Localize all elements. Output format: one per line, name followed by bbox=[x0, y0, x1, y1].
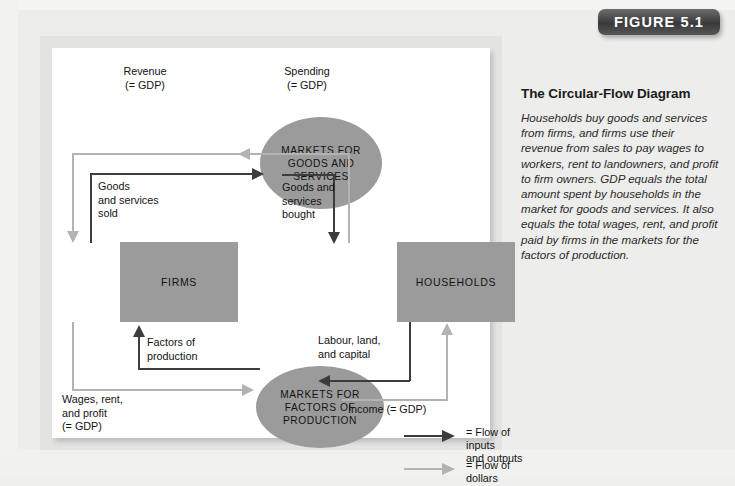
legend-equals-1: = bbox=[466, 459, 472, 471]
flow-wages-vertical bbox=[72, 322, 74, 390]
flow-goods-sold-arrowhead bbox=[252, 168, 264, 180]
legend-dark-arrowhead-icon bbox=[442, 430, 455, 442]
legend-light-arrow-icon bbox=[404, 468, 444, 470]
node-firms: FIRMS bbox=[120, 242, 238, 322]
flow-factors-vertical bbox=[138, 336, 140, 369]
caption-title: The Circular-Flow Diagram bbox=[521, 86, 719, 101]
flow-revenue-arrowhead bbox=[67, 231, 79, 243]
label-goods-and-services-sold: Goods and services sold bbox=[98, 180, 159, 221]
flow-goods-bought-arrowhead bbox=[328, 232, 340, 244]
caption-body: Households buy goods and services from f… bbox=[521, 110, 719, 262]
node-markets-goods-label: MARKETS FOR GOODS AND SERVICES bbox=[260, 144, 382, 183]
legend-dollars-text: = Flow of dollars bbox=[466, 459, 536, 485]
label-labour-land-and-capital: Labour, land, and capital bbox=[318, 334, 380, 361]
diagram-legend: = Flow of inputs and outputs = Flow of d… bbox=[404, 429, 536, 486]
flow-labour-horizontal bbox=[328, 380, 410, 382]
legend-item-dollars: = Flow of dollars bbox=[404, 462, 536, 486]
legend-label-1: Flow of dollars bbox=[466, 459, 510, 484]
flow-wages-arrowhead bbox=[242, 384, 254, 396]
diagram-panel: FIRMS HOUSEHOLDS MARKETS FOR GOODS AND S… bbox=[52, 48, 490, 438]
flow-factors-arrowhead bbox=[133, 325, 145, 337]
node-firms-label: FIRMS bbox=[161, 276, 197, 288]
label-goods-and-services-bought: Goods and services bought bbox=[282, 181, 335, 222]
flow-income-vertical bbox=[446, 334, 448, 400]
legend-item-inputs-outputs: = Flow of inputs and outputs bbox=[404, 429, 536, 453]
figure-number-label: FIGURE 5.1 bbox=[598, 9, 720, 35]
flow-factors-horizontal bbox=[138, 368, 260, 370]
flow-labour-arrowhead bbox=[318, 375, 330, 387]
label-factors-of-production: Factors of production bbox=[147, 336, 197, 363]
flow-goods-sold-vertical bbox=[90, 173, 92, 243]
label-wages-rent-and-profit: Wages, rent, and profit (= GDP) bbox=[62, 393, 123, 434]
figure-number-badge: FIGURE 5.1 bbox=[598, 9, 720, 35]
page-tint-left bbox=[0, 0, 18, 477]
flow-income-horizontal bbox=[342, 399, 448, 401]
page-tint-bottom bbox=[0, 449, 735, 477]
legend-light-arrowhead-icon bbox=[442, 463, 455, 475]
flow-labour-vertical bbox=[409, 322, 411, 381]
figure-caption: The Circular-Flow Diagram Households buy… bbox=[521, 86, 719, 262]
node-households-label: HOUSEHOLDS bbox=[416, 276, 497, 288]
node-households: HOUSEHOLDS bbox=[397, 242, 515, 322]
flow-spending-horizontal bbox=[248, 153, 349, 155]
label-revenue: Revenue (= GDP) bbox=[97, 65, 193, 92]
flow-revenue-horizontal bbox=[72, 153, 262, 155]
legend-equals-0: = bbox=[466, 426, 472, 438]
legend-dark-arrow-icon bbox=[404, 435, 444, 437]
flow-income-arrowhead bbox=[441, 323, 453, 335]
flow-goods-bought-horizontal bbox=[282, 174, 334, 176]
label-spending: Spending (= GDP) bbox=[257, 65, 357, 92]
label-income: Income (= GDP) bbox=[348, 403, 426, 417]
flow-spending-vertical bbox=[348, 153, 350, 243]
flow-spending-arrowhead bbox=[238, 148, 250, 160]
flow-goods-sold-horizontal bbox=[90, 173, 260, 175]
flow-wages-horizontal bbox=[72, 389, 250, 391]
flow-revenue-vertical bbox=[72, 153, 74, 235]
